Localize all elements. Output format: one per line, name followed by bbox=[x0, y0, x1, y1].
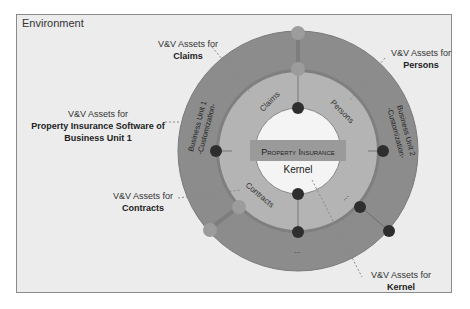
node-bottom-right-mid bbox=[354, 201, 366, 213]
callout-kernel-prefix: V&V Assets for bbox=[366, 269, 436, 281]
callout-claims-prefix: V&V Assets for bbox=[138, 38, 238, 50]
callout-bu1-prefix: V&V Assets for bbox=[30, 108, 166, 120]
callout-contracts-target: Contracts bbox=[122, 203, 164, 213]
center-subtitle: Kernel bbox=[284, 164, 313, 175]
segment-more-outer: ... bbox=[294, 246, 301, 255]
callout-persons-target: Persons bbox=[403, 60, 439, 70]
node-left-mid bbox=[210, 145, 222, 157]
callout-kernel-target: Kernel bbox=[387, 282, 415, 292]
center-title: Property Insurance bbox=[261, 147, 335, 157]
node-bottom-right-outer bbox=[383, 225, 395, 237]
node-right-mid bbox=[377, 145, 389, 157]
callout-claims-target: Claims bbox=[173, 51, 203, 61]
callout-bu1-target: Property Insurance Software of Business … bbox=[30, 120, 166, 144]
callout-claims: V&V Assets for Claims bbox=[138, 38, 238, 62]
callout-bu1: V&V Assets for Property Insurance Softwa… bbox=[30, 108, 166, 144]
callout-kernel: V&V Assets for Kernel bbox=[366, 269, 436, 293]
callout-contracts: V&V Assets for Contracts bbox=[108, 190, 178, 214]
node-kernel-bottom bbox=[292, 188, 304, 200]
node-top-outer bbox=[291, 26, 305, 40]
callout-persons: V&V Assets for Persons bbox=[384, 47, 458, 71]
node-bottom-left-mid bbox=[232, 200, 246, 214]
node-bottom-left-outer bbox=[203, 223, 217, 237]
callout-contracts-prefix: V&V Assets for bbox=[108, 190, 178, 202]
node-bottom-mid bbox=[292, 226, 304, 238]
node-top-mid bbox=[291, 62, 305, 76]
callout-persons-prefix: V&V Assets for bbox=[384, 47, 458, 59]
node-kernel-top bbox=[292, 102, 304, 114]
